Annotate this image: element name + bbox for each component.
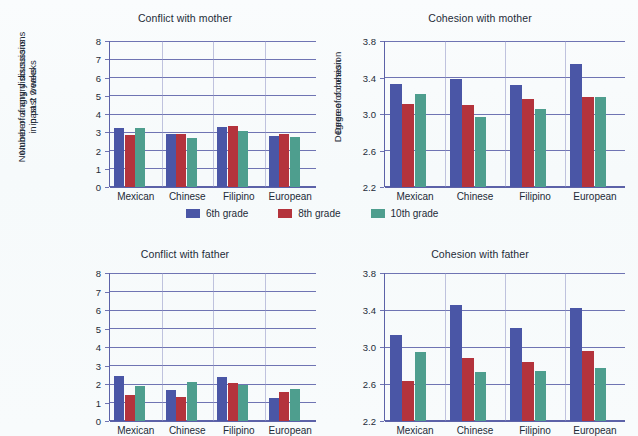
y-axis-tick-label: 2 bbox=[61, 145, 101, 156]
bar bbox=[238, 131, 248, 187]
category-separator bbox=[505, 41, 506, 187]
bar bbox=[462, 358, 474, 421]
bar bbox=[415, 94, 427, 187]
bar bbox=[450, 79, 462, 187]
y-axis-line bbox=[384, 273, 385, 421]
y-axis-tick bbox=[105, 187, 109, 188]
chart-panel-conflict-with-father: Conflict with father012345678MexicanChin… bbox=[52, 248, 318, 420]
category-separator bbox=[162, 273, 163, 421]
chart-title: Cohesion with mother bbox=[330, 12, 630, 24]
bar bbox=[166, 134, 176, 187]
chart-title: Cohesion with father bbox=[330, 248, 630, 260]
bar bbox=[570, 308, 582, 421]
bar bbox=[402, 104, 414, 187]
bar bbox=[269, 136, 279, 187]
y-axis-title-line: Degree of cohesion bbox=[332, 22, 343, 164]
bar bbox=[415, 352, 427, 421]
y-axis-tick-label: 3.8 bbox=[336, 268, 376, 279]
bar bbox=[475, 372, 487, 421]
bar bbox=[238, 385, 248, 421]
bar bbox=[114, 128, 124, 187]
bar bbox=[114, 376, 124, 421]
bar bbox=[228, 383, 238, 421]
legend-label: 8th grade bbox=[298, 208, 340, 219]
y-axis-tick bbox=[380, 421, 384, 422]
x-axis-tick-label: Mexican bbox=[396, 425, 433, 436]
bar bbox=[582, 351, 594, 421]
y-axis-tick-label: 5 bbox=[61, 90, 101, 101]
x-axis-tick-label: European bbox=[573, 425, 616, 436]
y-axis-tick-label: 1 bbox=[61, 163, 101, 174]
y-axis-tick-label: 6 bbox=[61, 305, 101, 316]
y-axis-tick bbox=[105, 421, 109, 422]
y-axis-tick-label: 3 bbox=[61, 127, 101, 138]
y-axis-title-line: Number of angry discussions bbox=[16, 18, 27, 168]
plot-area: 2.22.63.03.43.8MexicanChineseFilipinoEur… bbox=[385, 41, 625, 187]
bar bbox=[522, 362, 534, 421]
bar bbox=[279, 134, 289, 187]
y-axis-tick-label: 4 bbox=[61, 109, 101, 120]
plot-area: 2.22.63.03.43.8MexicanChineseFilipinoEur… bbox=[385, 273, 625, 421]
legend-label: 10th grade bbox=[391, 208, 439, 219]
bar bbox=[510, 85, 522, 187]
bar bbox=[228, 126, 238, 188]
plot-area: 012345678MexicanChineseFilipinoEuropean bbox=[110, 273, 316, 421]
legend-item: 10th grade bbox=[371, 208, 439, 219]
bar bbox=[187, 382, 197, 421]
y-axis-title-line: in past 2 weeks bbox=[27, 18, 38, 168]
bar bbox=[462, 105, 474, 187]
y-axis-tick-label: 2 bbox=[61, 379, 101, 390]
chart-panel-cohesion-with-father: Cohesion with father2.22.63.03.43.8Mexic… bbox=[330, 248, 630, 420]
legend-label: 6th grade bbox=[206, 208, 248, 219]
x-axis-tick-label: Mexican bbox=[117, 191, 154, 202]
bar bbox=[522, 99, 534, 187]
bar bbox=[570, 64, 582, 187]
category-separator bbox=[162, 41, 163, 187]
bar bbox=[290, 137, 300, 187]
bar bbox=[290, 389, 300, 421]
y-axis-title: Degree of cohesion bbox=[332, 22, 343, 164]
y-axis-tick-label: 2.2 bbox=[336, 182, 376, 193]
legend-swatch-icon bbox=[186, 209, 200, 218]
bar bbox=[475, 117, 487, 187]
legend-item: 6th grade bbox=[186, 208, 248, 219]
y-axis-tick-label: 2.6 bbox=[336, 379, 376, 390]
bar bbox=[217, 377, 227, 421]
x-axis-tick-label: Chinese bbox=[169, 425, 206, 436]
x-axis-tick-label: Mexican bbox=[117, 425, 154, 436]
y-axis-tick-label: 3.4 bbox=[336, 305, 376, 316]
bar bbox=[176, 134, 186, 187]
y-axis-tick-label: 7 bbox=[61, 54, 101, 65]
y-axis-tick-label: 3.0 bbox=[336, 342, 376, 353]
x-axis-tick-label: Filipino bbox=[519, 425, 551, 436]
legend-swatch-icon bbox=[371, 209, 385, 218]
bar bbox=[402, 381, 414, 421]
bar bbox=[187, 138, 197, 187]
x-axis-tick-label: Chinese bbox=[169, 191, 206, 202]
y-axis-tick-label: 5 bbox=[61, 323, 101, 334]
category-separator bbox=[265, 273, 266, 421]
x-axis-tick-label: Filipino bbox=[223, 191, 255, 202]
category-separator bbox=[213, 41, 214, 187]
x-axis-tick-label: Chinese bbox=[457, 425, 494, 436]
legend-swatch-icon bbox=[278, 209, 292, 218]
y-axis-tick-label: 0 bbox=[61, 416, 101, 427]
x-axis-tick-label: Filipino bbox=[223, 425, 255, 436]
bar bbox=[595, 368, 607, 421]
y-axis-line bbox=[384, 41, 385, 187]
category-separator bbox=[565, 273, 566, 421]
x-axis-tick-label: European bbox=[269, 191, 312, 202]
bar bbox=[390, 335, 402, 421]
y-axis-tick-label: 4 bbox=[61, 342, 101, 353]
bar bbox=[510, 328, 522, 421]
bar bbox=[535, 109, 547, 187]
x-axis-tick-label: Filipino bbox=[519, 191, 551, 202]
category-separator bbox=[265, 41, 266, 187]
bar bbox=[535, 371, 547, 421]
bar bbox=[582, 97, 594, 187]
bar bbox=[125, 395, 135, 421]
y-axis-tick-label: 0 bbox=[61, 182, 101, 193]
x-axis-tick-label: Mexican bbox=[396, 191, 433, 202]
category-separator bbox=[565, 41, 566, 187]
